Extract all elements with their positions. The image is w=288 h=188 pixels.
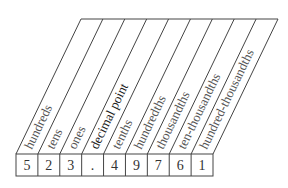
digit-cell: 4 (111, 158, 118, 173)
digit-cell: . (91, 158, 95, 173)
digit-cell: 5 (23, 158, 30, 173)
digit-cell: 2 (45, 158, 52, 173)
slant-divider (213, 19, 278, 154)
place-value-diagram: hundredstensonesdecimal pointtenthshundr… (0, 0, 288, 188)
digit-cell: 3 (67, 158, 74, 173)
digit-cell: 6 (177, 158, 184, 173)
digits: 523.49761 (23, 158, 205, 173)
column-label-tens: tens (43, 126, 66, 151)
digit-cell: 1 (199, 158, 206, 173)
digit-cell: 9 (133, 158, 140, 173)
digit-cell: 7 (155, 158, 162, 173)
